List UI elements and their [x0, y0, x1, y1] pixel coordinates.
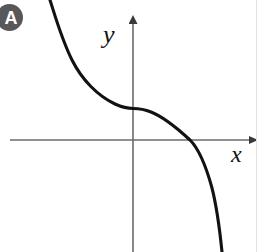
y-axis-label: y — [103, 22, 115, 48]
panel-label-letter: A — [2, 9, 18, 27]
cubic-curve — [50, 0, 222, 252]
page-edge-artifact — [256, 0, 257, 252]
x-axis-label: x — [231, 142, 242, 166]
figure-panel: y x A — [0, 0, 257, 252]
graph-canvas — [0, 0, 257, 252]
